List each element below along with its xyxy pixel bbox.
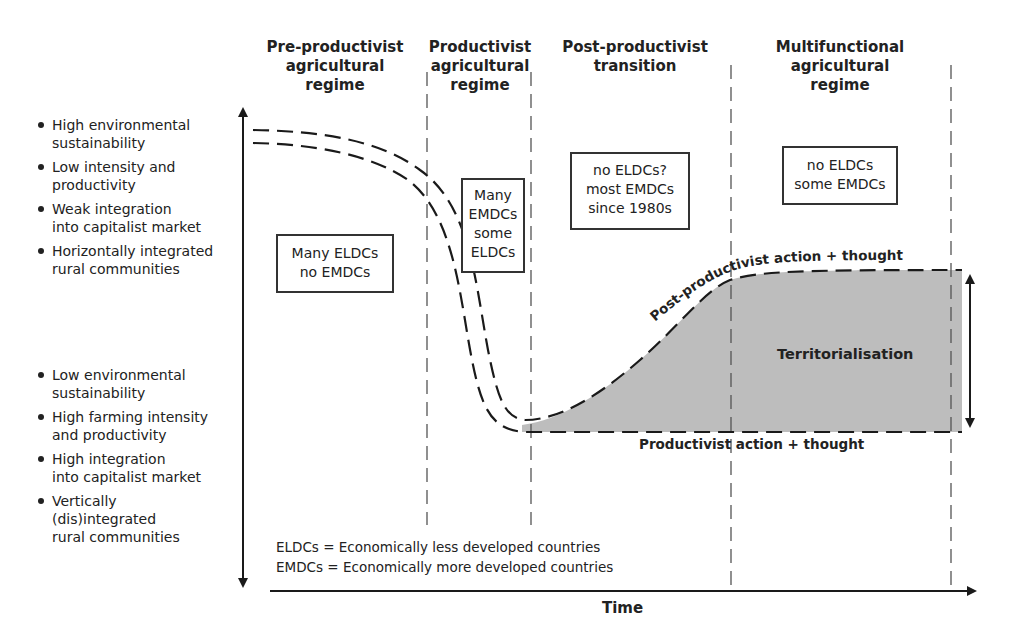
y-axis-top-characteristics: High environmental sustainability Low in… xyxy=(38,116,238,284)
header-line: agricultural xyxy=(770,57,910,76)
legend-row: ELDCs = Economically less developed coun… xyxy=(276,537,613,557)
item-line: (dis)integrated xyxy=(52,510,238,528)
header-line: regime xyxy=(420,76,540,95)
x-axis-label: Time xyxy=(602,599,643,617)
legend-meaning: Economically less developed countries xyxy=(339,539,600,555)
legend-sep: = xyxy=(323,559,343,575)
characteristic-item: Weak integration into capitalist market xyxy=(38,200,238,236)
header-line: regime xyxy=(770,76,910,95)
characteristic-item: Vertically (dis)integrated rural communi… xyxy=(38,492,238,546)
item-line: and productivity xyxy=(52,426,238,444)
box-post-productivist: no ELDCs? most EMDCs since 1980s xyxy=(570,152,690,230)
abbreviation-legend: ELDCs = Economically less developed coun… xyxy=(276,537,613,577)
characteristic-item: Horizontally integrated rural communitie… xyxy=(38,242,238,278)
legend-abbr: EMDCs xyxy=(276,559,323,575)
item-line: High farming intensity xyxy=(52,408,238,426)
item-line: Horizontally integrated xyxy=(52,242,238,260)
box-line: no ELDCs xyxy=(792,156,888,175)
header-line: regime xyxy=(255,76,415,95)
header-line: Pre-productivist xyxy=(255,38,415,57)
box-line: some xyxy=(465,224,521,243)
box-line: Many ELDCs xyxy=(286,244,384,263)
item-line: Weak integration xyxy=(52,200,238,218)
item-line: rural communities xyxy=(52,260,238,278)
characteristic-item: Low intensity and productivity xyxy=(38,158,238,194)
item-line: High integration xyxy=(52,450,238,468)
phase-header-pre-productivist: Pre-productivist agricultural regime xyxy=(255,38,415,95)
phase-header-productivist: Productivist agricultural regime xyxy=(420,38,540,95)
legend-sep: = xyxy=(319,539,339,555)
lower-curve-label: Productivist action + thought xyxy=(639,436,864,452)
legend-meaning: Economically more developed countries xyxy=(343,559,613,575)
item-line: into capitalist market xyxy=(52,468,238,486)
item-line: into capitalist market xyxy=(52,218,238,236)
box-line: some EMDCs xyxy=(792,175,888,194)
characteristic-item: High environmental sustainability xyxy=(38,116,238,152)
header-line: agricultural xyxy=(255,57,415,76)
box-line: no EMDCs xyxy=(286,263,384,282)
header-line: Multifunctional xyxy=(770,38,910,57)
y-axis-bottom-characteristics: Low environmental sustainability High fa… xyxy=(38,366,238,552)
item-line: Low intensity and xyxy=(52,158,238,176)
item-line: sustainability xyxy=(52,134,238,152)
box-line: EMDCs xyxy=(465,205,521,224)
item-line: Vertically xyxy=(52,492,238,510)
item-line: rural communities xyxy=(52,528,238,546)
characteristic-item: Low environmental sustainability xyxy=(38,366,238,402)
item-line: High environmental xyxy=(52,116,238,134)
header-line: agricultural xyxy=(420,57,540,76)
item-line: Low environmental xyxy=(52,366,238,384)
box-line: ELDCs xyxy=(465,243,521,262)
box-pre-productivist: Many ELDCs no EMDCs xyxy=(276,234,394,293)
characteristic-item: High farming intensity and productivity xyxy=(38,408,238,444)
territorialisation-label: Territorialisation xyxy=(777,346,913,362)
box-line: no ELDCs? xyxy=(580,161,680,180)
item-line: productivity xyxy=(52,176,238,194)
header-line: transition xyxy=(555,57,715,76)
box-line: most EMDCs xyxy=(580,180,680,199)
characteristic-item: High integration into capitalist market xyxy=(38,450,238,486)
box-line: Many xyxy=(465,186,521,205)
legend-row: EMDCs = Economically more developed coun… xyxy=(276,557,613,577)
phase-header-post-productivist: Post-productivist transition xyxy=(555,38,715,76)
header-line: Post-productivist xyxy=(555,38,715,57)
item-line: sustainability xyxy=(52,384,238,402)
phase-header-multifunctional: Multifunctional agricultural regime xyxy=(770,38,910,95)
box-line: since 1980s xyxy=(580,199,680,218)
box-multifunctional: no ELDCs some EMDCs xyxy=(782,146,898,205)
box-productivist: Many EMDCs some ELDCs xyxy=(461,178,525,273)
header-line: Productivist xyxy=(420,38,540,57)
legend-abbr: ELDCs xyxy=(276,539,319,555)
